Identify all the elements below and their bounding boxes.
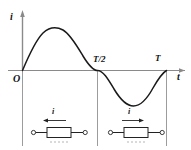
y-axis-arrowhead xyxy=(20,10,25,17)
left-resistor xyxy=(47,128,71,138)
left-circuit-terminal-a xyxy=(31,130,35,134)
left-circuit-terminal-b xyxy=(83,130,87,134)
right-circuit-terminal-a xyxy=(108,130,112,134)
right-current-arrowhead xyxy=(139,119,144,123)
origin-label: O xyxy=(13,74,20,84)
y-axis-label: i xyxy=(10,12,13,22)
tick-label-half-period: T/2 xyxy=(93,55,106,64)
figure-canvas xyxy=(0,0,191,150)
left-current-arrowhead xyxy=(43,119,48,123)
right-circuit-current-label: i xyxy=(128,108,130,116)
right-resistor xyxy=(124,128,148,138)
right-circuit-terminal-b xyxy=(160,130,164,134)
x-axis-label: t xyxy=(177,72,180,82)
left-circuit-current-label: i xyxy=(52,108,54,116)
tick-label-full-period: T xyxy=(155,54,161,63)
sine-curve xyxy=(23,28,167,106)
waveform-figure: i t O T/2 T i i xyxy=(0,0,191,150)
